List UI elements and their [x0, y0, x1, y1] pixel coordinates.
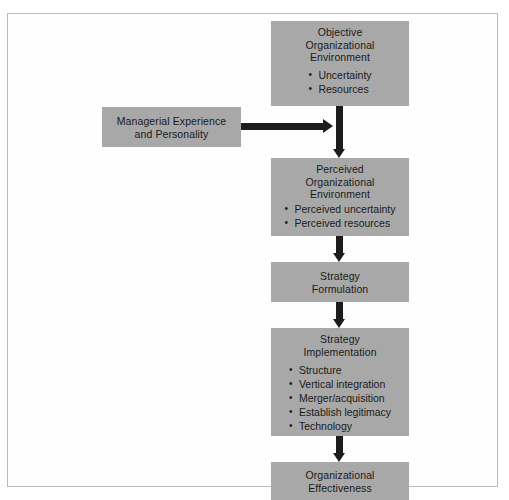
list-item: Resources	[308, 82, 371, 96]
node-objective-environment: Objective Organizational Environment Unc…	[271, 21, 409, 106]
arrow-head-icon	[333, 253, 345, 262]
node-title: Organizational Effectiveness	[271, 469, 409, 494]
arrow-perceived-to-formulation	[333, 236, 346, 262]
node-bullet-list: Perceived uncertainty Perceived resource…	[285, 202, 396, 230]
figure-frame: Objective Organizational Environment Unc…	[7, 13, 498, 487]
node-bullets-wrap: Uncertainty Resources	[271, 64, 409, 96]
list-item: Uncertainty	[308, 68, 371, 82]
node-strategy-implementation: Strategy Implementation Structure Vertic…	[271, 328, 409, 436]
arrow-head-icon	[323, 119, 333, 133]
node-organizational-effectiveness: Organizational Effectiveness	[271, 462, 409, 500]
arrow-shaft	[336, 236, 343, 254]
node-title: Managerial Experience and Personality	[102, 115, 241, 140]
list-item: Vertical integration	[289, 377, 391, 391]
node-bullet-list: Structure Vertical integration Merger/ac…	[289, 363, 391, 433]
list-item: Establish legitimacy	[289, 405, 391, 419]
list-item: Perceived resources	[285, 216, 396, 230]
node-bullets-wrap: Structure Vertical integration Merger/ac…	[271, 358, 409, 433]
arrow-shaft	[336, 106, 343, 150]
arrow-head-icon	[333, 319, 345, 328]
node-title: Strategy Formulation	[271, 270, 409, 295]
node-title: Perceived Organizational Environment	[271, 163, 409, 201]
node-bullets-wrap: Perceived uncertainty Perceived resource…	[271, 201, 409, 230]
node-title: Objective Organizational Environment	[271, 26, 409, 64]
list-item: Perceived uncertainty	[285, 202, 396, 216]
list-item: Structure	[289, 363, 391, 377]
node-strategy-formulation: Strategy Formulation	[271, 262, 409, 302]
arrow-head-icon	[333, 149, 345, 158]
arrow-formulation-to-implementation	[333, 302, 346, 328]
arrow-shaft	[241, 123, 323, 130]
node-title: Strategy Implementation	[271, 333, 409, 358]
arrow-head-icon	[333, 453, 345, 462]
node-managerial-experience: Managerial Experience and Personality	[102, 107, 241, 147]
node-perceived-environment: Perceived Organizational Environment Per…	[271, 158, 409, 236]
arrow-objective-to-perceived	[333, 106, 346, 158]
arrow-shaft	[336, 436, 343, 454]
arrow-managerial-to-flow	[241, 119, 333, 134]
arrow-implementation-to-effectiveness	[333, 436, 346, 462]
node-bullet-list: Uncertainty Resources	[308, 68, 371, 96]
list-item: Merger/acquisition	[289, 391, 391, 405]
list-item: Technology	[289, 419, 391, 433]
arrow-shaft	[336, 302, 343, 320]
